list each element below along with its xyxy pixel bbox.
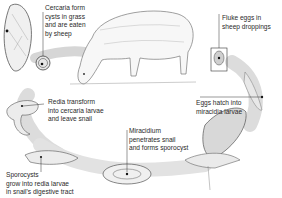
- label-cercaria: Cercaria form cysts in grass and are eat…: [45, 4, 86, 38]
- life-cycle-diagram: Cercaria form cysts in grass and are eat…: [0, 0, 282, 198]
- label-redia: Redia transform into cercaria larvae and…: [48, 98, 104, 124]
- label-fluke-eggs: Fluke eggs in sheep droppings: [222, 14, 271, 31]
- label-eggs-hatch: Eggs hatch into miracidia larvae: [196, 99, 242, 116]
- snail-illustration: [185, 108, 246, 190]
- label-miracidium: Miracidium penetrates snail and forms sp…: [129, 127, 188, 153]
- adult-fluke-illustration: [4, 4, 31, 71]
- label-sporocysts: Sporocysts grow into redia larvae in sna…: [6, 171, 74, 197]
- sheep-illustration: [70, 11, 196, 84]
